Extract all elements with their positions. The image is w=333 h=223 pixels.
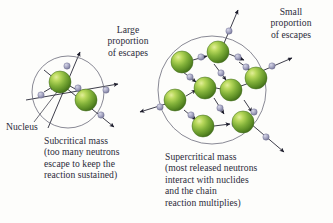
nucleus-sphere — [207, 41, 229, 63]
neutron — [218, 70, 224, 76]
nucleus-sphere — [164, 89, 186, 111]
nucleus-sphere — [220, 79, 242, 101]
chain-reaction-figure: Large proportion of escapes Small propor… — [0, 0, 333, 223]
nucleus-sphere — [192, 115, 214, 137]
nucleus-sphere — [75, 89, 97, 111]
nucleus-sphere — [245, 67, 267, 89]
subcritical-neutrons — [38, 63, 109, 118]
label-supercritical-mass-caption: Supercritical mass (most released neutro… — [165, 151, 315, 208]
neutron — [235, 54, 241, 60]
label-small-proportion-of-escapes: Small proportion of escapes — [252, 6, 330, 40]
neutron — [75, 85, 81, 91]
subcritical-group — [26, 52, 118, 128]
nucleus-sphere — [194, 77, 216, 99]
neutron — [226, 28, 232, 34]
neutron — [243, 64, 249, 70]
label-nucleus: Nucleus — [6, 121, 66, 132]
neutron — [198, 54, 204, 60]
neutron — [187, 74, 193, 80]
neutron — [263, 134, 269, 140]
internal-arrow — [244, 100, 252, 112]
nucleus-sphere — [49, 71, 71, 93]
neutron — [103, 87, 109, 93]
internal-arrow — [214, 124, 230, 126]
label-large-proportion-of-escapes: Large proportion of escapes — [76, 24, 180, 58]
neutron — [38, 92, 44, 98]
label-subcritical-mass-caption: Subcritical mass (too many neutrons esca… — [44, 135, 164, 181]
neutron — [217, 105, 223, 111]
neutron — [251, 109, 257, 115]
neutron — [157, 104, 163, 110]
neutron — [188, 112, 194, 118]
neutron — [64, 63, 70, 69]
neutron — [269, 63, 275, 69]
subcritical-nuclei — [49, 71, 97, 111]
nucleus-sphere — [232, 111, 254, 133]
neutron — [98, 112, 104, 118]
